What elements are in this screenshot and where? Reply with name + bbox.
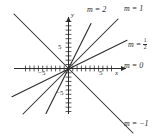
y-tick-label-5: 5: [58, 44, 62, 51]
line-graph-figure: y x −5 5 5 −5 m = 2 m = 1 m = 12 m = 0 m…: [0, 0, 159, 138]
line-m-1: [23, 19, 118, 114]
slope-label-m-2: m = 2: [87, 6, 106, 14]
x-tick-label-5: 5: [99, 70, 103, 77]
slope-label-m-1: m = 1: [124, 5, 143, 13]
y-axis-label: y: [71, 12, 74, 19]
x-tick-label-neg5: −5: [38, 70, 45, 77]
fraction-denominator: 2: [143, 45, 147, 51]
fraction-one-half: 12: [143, 38, 147, 51]
slope-label-m-neg1: m = −1: [124, 120, 149, 128]
x-axis-label: x: [115, 70, 118, 77]
y-tick-label-neg5: −5: [56, 90, 63, 97]
slope-label-m-half-prefix: m =: [128, 40, 143, 49]
slope-label-m-0: m = 0: [124, 62, 143, 70]
slope-label-m-half: m = 12: [128, 38, 147, 51]
